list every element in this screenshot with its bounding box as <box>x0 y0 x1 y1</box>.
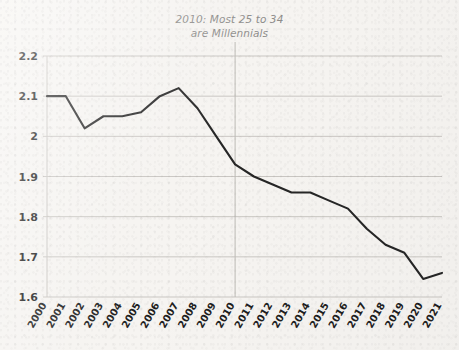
data-series-line <box>47 88 442 279</box>
y-tick-label-2.1: 2.1 <box>19 90 39 103</box>
y-tick-label-2.2: 2.2 <box>19 50 39 63</box>
chart-container: 2010: Most 25 to 34 are Millennials 2.22… <box>0 0 459 350</box>
y-tick-label-1.9: 1.9 <box>19 171 39 184</box>
x-axis-tick-labels: 2000200120022003200420052006200720082009… <box>25 300 443 330</box>
line-chart-plot: 2.22.121.91.81.71.6 20002001200220032004… <box>0 0 459 350</box>
gridlines <box>47 56 442 297</box>
y-tick-label-1.7: 1.7 <box>19 251 39 264</box>
y-tick-label-1.6: 1.6 <box>19 291 39 304</box>
y-tick-label-1.8: 1.8 <box>19 211 39 224</box>
series-line-value <box>47 88 442 279</box>
x-tick-label-2021: 2021 <box>420 300 443 330</box>
y-axis-tick-labels: 2.22.121.91.81.71.6 <box>19 50 48 304</box>
y-tick-label-2: 2 <box>30 130 38 143</box>
